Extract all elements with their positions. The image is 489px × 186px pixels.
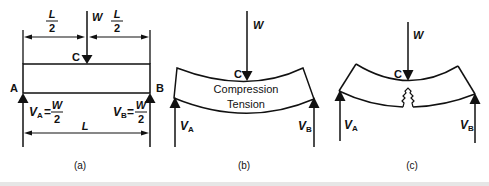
span-label: L — [82, 120, 89, 132]
svg-text:=: = — [127, 105, 134, 119]
caption-a: (a) — [74, 160, 86, 171]
reaction-a-label: V A — [180, 119, 194, 134]
svg-text:2: 2 — [49, 22, 55, 34]
load-label-w: W — [92, 11, 104, 23]
caption-c: (c) — [406, 160, 418, 171]
beam-bending-figure: L 2 L 2 W C A B V — [0, 0, 489, 186]
reaction-arrow-b — [309, 97, 320, 147]
panel-a: L 2 L 2 W C A B V — [10, 8, 164, 171]
beam-rectangle — [23, 64, 150, 93]
reaction-b-label: V B — [460, 118, 474, 133]
support-b-label: B — [156, 82, 164, 94]
label-half-span-left: L 2 — [46, 8, 58, 34]
reaction-arrow-a — [18, 93, 29, 147]
svg-text:W: W — [52, 99, 64, 111]
support-a-label: A — [10, 82, 18, 94]
reaction-arrow-a — [170, 97, 181, 147]
crack — [402, 88, 414, 107]
dimension-half-span-left — [24, 35, 85, 40]
load-arrow-w — [242, 11, 253, 81]
svg-text:=: = — [44, 105, 51, 119]
reaction-b-label: V B — [298, 119, 312, 134]
load-label-w: W — [413, 29, 425, 41]
dimension-half-span-right — [89, 35, 149, 40]
compression-zone-label: Compression — [214, 83, 279, 95]
reaction-arrow-b — [470, 93, 481, 143]
svg-text:2: 2 — [114, 22, 120, 34]
point-c-label: C — [72, 51, 80, 63]
reaction-a-label: V A = W 2 — [29, 99, 64, 125]
svg-text:A: A — [37, 111, 43, 120]
svg-text:L: L — [114, 8, 121, 20]
label-half-span-right: L 2 — [111, 8, 123, 34]
point-c-label: C — [394, 68, 402, 80]
load-arrow-w — [403, 22, 414, 81]
svg-text:2: 2 — [138, 113, 144, 125]
reaction-arrow-a — [335, 90, 346, 141]
svg-text:L: L — [49, 8, 56, 20]
svg-text:2: 2 — [54, 113, 60, 125]
svg-text:A: A — [352, 124, 358, 133]
panel-c: W C V A V B (c) — [335, 22, 481, 171]
caption-b: (b) — [238, 160, 250, 171]
panel-b: W C Compression Tension V A V B (b) — [170, 11, 320, 171]
svg-text:W: W — [136, 99, 148, 111]
point-c-label: C — [234, 68, 242, 80]
tension-zone-label: Tension — [227, 98, 265, 110]
reaction-a-label: V A — [344, 118, 358, 133]
bottom-border — [0, 182, 489, 186]
svg-text:B: B — [306, 125, 312, 134]
load-label-w: W — [253, 19, 265, 31]
reaction-b-label: V B = W 2 — [113, 99, 148, 125]
svg-text:B: B — [468, 124, 474, 133]
svg-text:A: A — [188, 125, 194, 134]
